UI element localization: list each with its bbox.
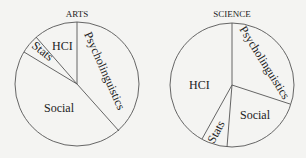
science-pie: SCIENCE HCI Psycholinguistics Social Sta…	[170, 9, 294, 147]
pie-charts: ARTS HCI Stats Psycholinguistics Social …	[0, 0, 306, 158]
arts-title: ARTS	[66, 9, 88, 19]
arts-label-social: Social	[44, 101, 75, 115]
science-label-social: Social	[240, 108, 271, 122]
science-label-hci: HCI	[189, 78, 210, 92]
science-title: SCIENCE	[213, 9, 251, 19]
arts-pie: ARTS HCI Stats Psycholinguistics Social	[15, 9, 139, 146]
